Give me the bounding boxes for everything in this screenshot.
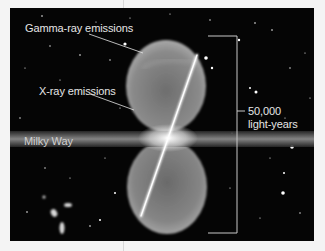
milky-way-label: Milky Way <box>24 135 73 147</box>
scale-unit-label: light-years <box>248 118 298 130</box>
xray-label: X-ray emissions <box>39 85 116 97</box>
scale-value-label: 50,000 <box>248 105 281 117</box>
margin-guide-top <box>123 0 124 8</box>
gamma-ray-label: Gamma-ray emissions <box>25 22 133 34</box>
background-galaxies <box>43 196 73 235</box>
margin-guide-bottom <box>123 241 124 251</box>
galaxy-image: Gamma-ray emissions X-ray emissions Milk… <box>10 8 314 241</box>
gamma-leader-line <box>89 34 143 53</box>
